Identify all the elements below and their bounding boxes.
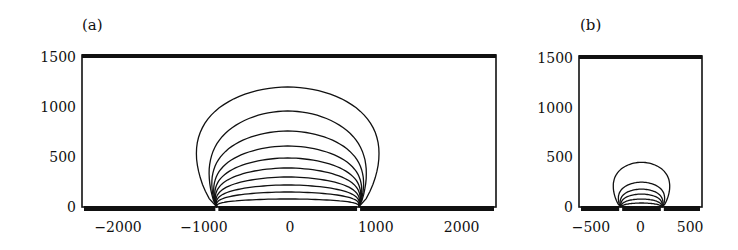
y-tick-label: 1500 [40, 49, 76, 65]
panel-b: (b)050010001500−5000500 [537, 16, 703, 235]
electrode-bar [664, 206, 700, 211]
x-tick-label: 0 [285, 219, 294, 235]
contour-line [217, 199, 359, 207]
x-tick-label: 2000 [444, 219, 480, 235]
contour-line [216, 185, 359, 207]
y-tick-label: 500 [49, 149, 76, 165]
electrode-bar [218, 206, 357, 211]
electrode-bar [84, 206, 215, 211]
electrode-bar [622, 206, 661, 211]
panel-a: (a)050010001500−2000−1000010002000 [40, 16, 496, 235]
y-tick-label: 1500 [537, 50, 573, 66]
panel-label: (b) [580, 16, 601, 34]
y-tick-label: 0 [564, 199, 573, 215]
x-tick-label: 1000 [358, 219, 394, 235]
x-tick-label: −1000 [180, 219, 227, 235]
figure: (a)050010001500−2000−1000010002000 (b)05… [0, 0, 738, 250]
x-tick-label: 0 [636, 219, 645, 235]
x-tick-label: 500 [677, 219, 704, 235]
panel-label: (a) [82, 16, 103, 34]
x-tick-label: −2000 [94, 219, 141, 235]
y-tick-label: 500 [546, 149, 573, 165]
y-tick-label: 1000 [40, 99, 76, 115]
x-tick-label: −500 [572, 219, 610, 235]
y-tick-label: 1000 [537, 100, 573, 116]
electrode-bar [581, 206, 619, 211]
electrode-bar [360, 206, 494, 211]
y-tick-label: 0 [67, 199, 76, 215]
plot-frame [579, 56, 702, 207]
